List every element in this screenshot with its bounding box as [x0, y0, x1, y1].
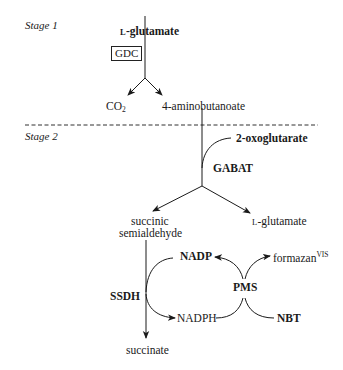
- stage2-label: Stage 2: [25, 131, 58, 142]
- semialdehyde-label: semialdehyde: [119, 228, 182, 240]
- gdc-enzyme-box: GDC: [111, 46, 142, 61]
- l-glutamate-product: L-glutamate: [252, 216, 307, 228]
- gdc-label: GDC: [115, 47, 138, 59]
- nadp-in-curve: [146, 258, 173, 292]
- glutamate-name: -glutamate: [126, 25, 179, 37]
- l-glutamate-arrow: [202, 186, 250, 213]
- nadph-cofactor: NADPH: [177, 313, 217, 325]
- nbt-to-pms-curve: [245, 298, 274, 318]
- pms-to-formazan-curve: [245, 256, 270, 279]
- co2-product: CO2: [106, 101, 126, 114]
- nadph-to-pms-curve: [216, 298, 243, 318]
- aminobutanoate-arrow: [145, 78, 162, 95]
- formazan-product: formazanVIS: [273, 251, 329, 265]
- glutamate-product-name: -glutamate: [258, 215, 307, 227]
- nadph-out-curve: [146, 294, 175, 318]
- co2-subscript: 2: [122, 105, 126, 114]
- succinic-label: succinic: [131, 216, 169, 228]
- nbt-dye: NBT: [277, 313, 301, 325]
- semialdehyde-arrow: [153, 186, 202, 211]
- gabat-enzyme: GABAT: [213, 163, 253, 175]
- aminobutanoate-product: 4-aminobutanoate: [162, 101, 245, 113]
- succinate-product: succinate: [126, 345, 169, 357]
- nadp-cofactor: NADP: [180, 251, 212, 263]
- pms-mediator: PMS: [233, 282, 257, 294]
- pms-to-nadp-curve: [215, 257, 243, 279]
- ssdh-enzyme: SSDH: [110, 291, 140, 303]
- l-glutamate-substrate: L-glutamate: [120, 26, 179, 38]
- formazan-base: formazan: [273, 252, 316, 264]
- stage1-label: Stage 1: [25, 20, 58, 31]
- oxoglutarate-cosubstrate: 2-oxoglutarate: [236, 133, 308, 145]
- co2-base: CO: [106, 100, 122, 112]
- formazan-superscript: VIS: [316, 250, 328, 259]
- co2-arrow: [128, 78, 145, 95]
